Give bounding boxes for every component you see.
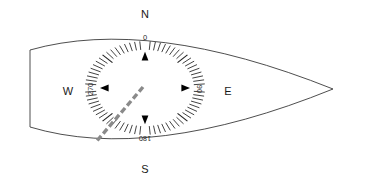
degree-180-label: 180 — [139, 134, 152, 143]
degree-270-label: 270 — [86, 83, 95, 96]
degree-090-label: 90 — [195, 85, 204, 93]
cardinal-north-label: N — [141, 8, 149, 20]
cardinal-south-label: S — [141, 163, 148, 175]
compass-hull-figure: 090180270 NESW — [0, 0, 369, 178]
compass-diagram: 090180270 NESW — [0, 0, 369, 178]
cardinal-east-label: E — [224, 85, 231, 97]
cardinal-west-label: W — [63, 85, 74, 97]
degree-000-label: 0 — [143, 33, 147, 42]
